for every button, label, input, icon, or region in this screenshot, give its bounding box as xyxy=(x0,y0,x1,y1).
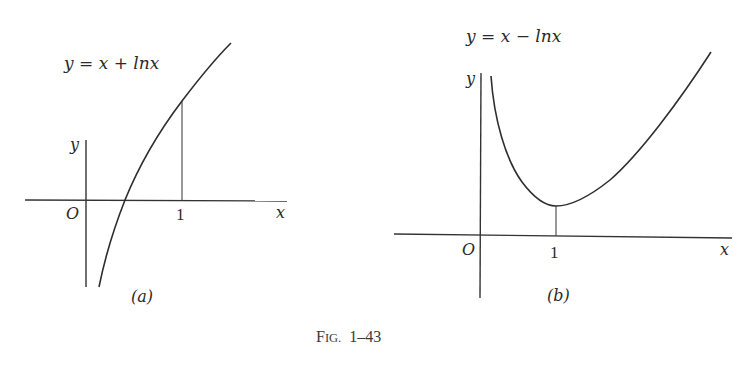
y-axis-label-a: y xyxy=(69,135,80,154)
y-axis-b xyxy=(480,73,481,298)
x-axis-b xyxy=(394,234,732,238)
x-axis-a xyxy=(25,200,287,201)
origin-label-a: O xyxy=(66,204,79,223)
x-axis-label-a: x xyxy=(276,203,285,222)
panel-label-b: (b) xyxy=(547,286,570,305)
caption-number: 1–43 xyxy=(349,328,381,345)
panel-label-a: (a) xyxy=(131,287,153,306)
y-axis-label-b: y xyxy=(465,69,476,88)
tick-label-1-b: 1 xyxy=(550,243,559,262)
figure-1-43: y = x + lnx y O x 1 (a) y = x − lnx y O … xyxy=(0,0,747,365)
equation-b: y = x − lnx xyxy=(465,26,562,46)
caption-smallcaps: IG. xyxy=(325,331,341,345)
panel-b: y = x − lnx y O x 1 (b) xyxy=(394,26,732,305)
curve-x-plus-lnx xyxy=(99,43,231,287)
equation-a: y = x + lnx xyxy=(63,53,160,73)
x-axis-label-b: x xyxy=(720,240,729,259)
caption-prefix: F xyxy=(316,328,325,345)
figure-caption: FIG.1–43 xyxy=(316,328,381,345)
origin-label-b: O xyxy=(462,240,475,259)
tick-label-1-a: 1 xyxy=(176,205,185,224)
curve-x-minus-lnx xyxy=(491,52,711,206)
panel-a: y = x + lnx y O x 1 (a) xyxy=(25,43,287,306)
